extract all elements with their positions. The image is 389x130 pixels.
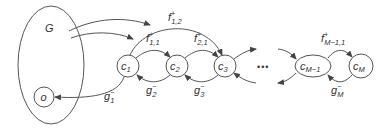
edge-g-M [328,75,352,82]
label-g-1: g−1 [104,89,114,105]
edge-f-1-1 [136,50,170,58]
edge-c3-out [234,49,256,59]
label-g-2: g−2 [146,83,157,99]
edge-g-2 [137,75,170,82]
ellipsis: ••• [257,62,269,72]
state-transition-diagram: G o c1 c2 c3 ••• cM−1 cM f+1,2 f+ [0,0,389,130]
node-cM-1: cM−1 [295,55,331,77]
label-g-M: g−M [331,83,344,99]
label-f-1-1: f+1,1 [146,31,160,47]
label-f-2-1: f+2,1 [194,31,208,47]
edge-f-M-1-1 [328,50,352,58]
edge-cM-1-out-back [278,73,296,83]
edge-f-2-1 [185,50,218,58]
label-f-1-2: f+1,2 [168,10,182,26]
node-o: o [34,87,54,107]
node-c2: c2 [166,55,188,77]
label-g-3: g−3 [194,83,205,99]
group-g-label: G [45,22,54,34]
group-g: G [18,6,84,124]
node-o-label: o [41,91,47,103]
label-f-M-1-1: f+M−1,1 [321,31,345,47]
node-cM: cM [349,54,373,78]
edge-into-cM-1 [278,49,296,59]
edge-into-c3-back [234,73,256,83]
node-c1: c1 [117,55,139,77]
edge-g-3 [185,75,218,82]
arrow-g-to-c3 [69,19,150,31]
node-c3: c3 [214,55,236,77]
